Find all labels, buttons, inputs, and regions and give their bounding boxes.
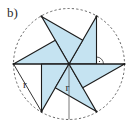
side-radius-line: [14, 64, 42, 112]
radius-label-side: r: [23, 78, 27, 90]
pinwheel-diagram: r r: [0, 0, 132, 126]
right-angle-marker: [97, 57, 104, 64]
radius-label-vertical: r: [66, 81, 70, 93]
right-angle-dot: [99, 61, 100, 62]
part-label: b): [7, 5, 18, 21]
